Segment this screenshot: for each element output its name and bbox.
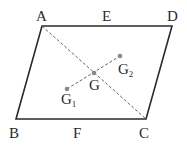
label-g1-main: G	[61, 91, 72, 107]
parallelogram-diagram: A E D B F C G G1 G2	[0, 0, 187, 145]
label-c: C	[139, 125, 149, 141]
label-a: A	[36, 8, 47, 24]
label-g1: G1	[61, 91, 76, 109]
point-g2	[118, 54, 123, 59]
label-g: G	[89, 77, 100, 93]
label-g2: G2	[118, 61, 133, 79]
label-f: F	[73, 125, 81, 141]
label-e: E	[102, 8, 111, 24]
label-g2-sub: 2	[129, 69, 134, 79]
label-g2-main: G	[118, 61, 129, 77]
label-b: B	[9, 125, 19, 141]
label-d: D	[167, 8, 178, 24]
label-g1-sub: 1	[72, 99, 77, 109]
point-g	[92, 71, 97, 76]
